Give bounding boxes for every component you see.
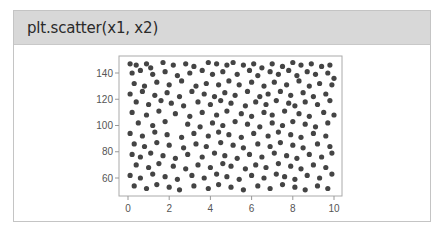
data-point — [268, 186, 273, 191]
data-point — [313, 72, 318, 77]
data-point — [185, 122, 190, 127]
data-point — [327, 63, 332, 68]
data-point — [148, 65, 153, 70]
data-point — [296, 78, 301, 83]
data-point — [266, 133, 271, 138]
data-point — [130, 152, 135, 157]
data-point — [303, 99, 308, 104]
data-point — [220, 69, 225, 74]
data-point — [249, 114, 254, 119]
data-point — [259, 65, 264, 70]
data-point — [331, 76, 336, 81]
data-point — [144, 112, 149, 117]
data-point — [290, 119, 295, 124]
data-point — [255, 183, 260, 188]
data-point — [321, 110, 326, 115]
data-point — [144, 61, 149, 66]
data-point — [263, 102, 268, 107]
data-point — [251, 61, 256, 66]
data-point — [130, 110, 135, 115]
data-point — [208, 165, 213, 170]
data-point — [177, 187, 182, 192]
data-point — [290, 60, 295, 65]
y-tick-label: 100 — [96, 120, 113, 131]
data-point — [288, 132, 293, 137]
data-point — [270, 61, 275, 66]
x-tick-label: 8 — [290, 203, 296, 214]
data-point — [284, 82, 289, 87]
data-point — [237, 82, 242, 87]
data-point — [187, 70, 192, 75]
data-point — [175, 73, 180, 78]
data-point — [261, 110, 266, 115]
data-point — [231, 143, 236, 148]
data-point — [261, 84, 266, 89]
data-point — [222, 90, 227, 95]
data-point — [257, 124, 262, 129]
data-point — [222, 153, 227, 158]
data-point — [163, 69, 168, 74]
data-point — [294, 156, 299, 161]
data-point — [156, 109, 161, 114]
data-point — [233, 119, 238, 124]
data-point — [136, 120, 141, 125]
data-point — [253, 99, 258, 104]
data-point — [146, 102, 151, 107]
data-point — [150, 123, 155, 128]
data-point — [193, 84, 198, 89]
data-point — [134, 63, 139, 68]
data-point — [317, 81, 322, 86]
data-point — [154, 80, 159, 85]
data-point — [251, 131, 256, 136]
data-point — [303, 187, 308, 192]
data-point — [278, 140, 283, 145]
data-point — [249, 173, 254, 178]
data-point — [329, 172, 334, 177]
data-point — [325, 70, 330, 75]
data-point — [296, 111, 301, 116]
data-point — [313, 124, 318, 129]
data-point — [169, 101, 174, 106]
data-point — [327, 98, 332, 103]
data-point — [226, 78, 231, 83]
data-point — [183, 61, 188, 66]
data-point — [319, 64, 324, 69]
data-point — [309, 61, 314, 66]
data-point — [140, 89, 145, 94]
data-point — [208, 102, 213, 107]
data-point — [132, 183, 137, 188]
data-point — [142, 84, 147, 89]
data-point — [218, 140, 223, 145]
data-point — [138, 68, 143, 73]
data-point — [189, 89, 194, 94]
data-point — [241, 145, 246, 150]
data-point — [167, 82, 172, 87]
data-point — [214, 61, 219, 66]
x-tick-label: 2 — [166, 203, 172, 214]
data-point — [255, 141, 260, 146]
data-point — [323, 133, 328, 138]
data-point — [152, 130, 157, 135]
data-point — [303, 122, 308, 127]
data-point — [257, 94, 262, 99]
y-tick-label: 60 — [102, 173, 114, 184]
data-point — [235, 156, 240, 161]
data-point — [280, 182, 285, 187]
data-point — [210, 120, 215, 125]
data-point — [315, 141, 320, 146]
data-point — [163, 174, 168, 179]
data-point — [198, 124, 203, 129]
x-tick-label: 6 — [249, 203, 255, 214]
data-point — [158, 98, 163, 103]
data-point — [218, 98, 223, 103]
data-point — [146, 165, 151, 170]
data-point — [165, 132, 170, 137]
data-point — [148, 151, 153, 156]
data-point — [187, 114, 192, 119]
data-point — [220, 123, 225, 128]
data-point — [200, 110, 205, 115]
data-point — [171, 164, 176, 169]
data-point — [163, 119, 168, 124]
data-point — [298, 63, 303, 68]
data-point — [206, 186, 211, 191]
